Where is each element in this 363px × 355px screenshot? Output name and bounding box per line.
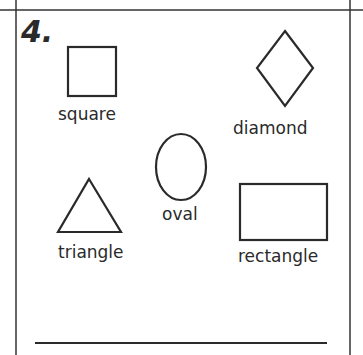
triangle-label: triangle — [58, 242, 124, 262]
square-shape — [68, 47, 116, 96]
oval-shape — [156, 134, 206, 200]
oval-label: oval — [162, 204, 198, 224]
diamond-label: diamond — [233, 118, 307, 138]
rectangle-shape — [240, 184, 327, 240]
worksheet-panel: 4. square diamond oval triangle rectangl… — [0, 0, 363, 355]
rectangle-label: rectangle — [238, 246, 318, 266]
problem-number: 4. — [21, 14, 53, 49]
worksheet-drawing — [0, 0, 363, 355]
diamond-shape — [257, 31, 313, 106]
square-label: square — [58, 104, 116, 124]
triangle-shape — [58, 179, 121, 232]
